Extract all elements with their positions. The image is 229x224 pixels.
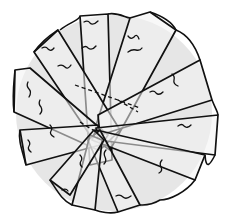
sketch-illustration [0, 0, 229, 224]
round-slices-drawing [0, 0, 229, 224]
